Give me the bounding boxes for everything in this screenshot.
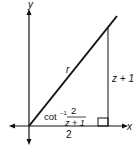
x-axis-left-arrow-icon — [9, 124, 15, 129]
triangle-diagram: x y r z + 1 2 cot −1 2 z + 1 — [0, 0, 136, 154]
angle-label-superscript: −1 — [60, 110, 68, 116]
right-angle-marker — [98, 118, 108, 126]
vertical-leg-label: z + 1 — [111, 73, 134, 84]
x-axis-label: x — [126, 121, 133, 132]
horizontal-leg-label: 2 — [66, 129, 72, 140]
hypotenuse-label: r — [66, 64, 70, 75]
angle-label-denominator: z + 1 — [64, 118, 85, 128]
angle-label-numerator: 2 — [71, 105, 76, 116]
y-axis-down-arrow-icon — [27, 139, 32, 145]
angle-label-prefix: cot — [44, 111, 57, 122]
angle-label: cot −1 2 z + 1 — [44, 105, 86, 128]
y-axis-label: y — [27, 0, 34, 10]
